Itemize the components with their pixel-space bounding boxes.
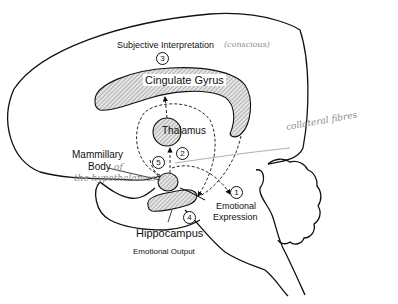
cerebellum-outline xyxy=(268,159,321,244)
brainstem-outline xyxy=(185,210,288,296)
thalamus-label: Thalamus xyxy=(162,125,206,136)
hippocampus-pointer xyxy=(168,210,172,222)
step-4-badge: 4 xyxy=(183,211,196,224)
cingulate-gyrus-label: Cingulate Gyrus xyxy=(143,74,226,86)
hippocampus-shape xyxy=(148,190,197,212)
frontal-lower-outline xyxy=(8,89,160,180)
of-annotation: of xyxy=(114,162,123,172)
brainstem-back xyxy=(256,170,305,295)
step-5-badge: 5 xyxy=(152,156,165,169)
emotional-output-label: Emotional Output xyxy=(133,247,195,256)
hippocampus-label: Hippocampus xyxy=(136,227,203,239)
temporal-lobe-notch xyxy=(100,182,155,198)
step-2-badge: 2 xyxy=(176,147,189,160)
dashed-to-expression xyxy=(172,166,230,194)
emotional-expression-label-line1: Emotional xyxy=(216,201,256,211)
step-1-badge: 1 xyxy=(230,186,243,199)
conscious-annotation: (conscious) xyxy=(224,40,270,49)
emotional-expression-label-line2: Expression xyxy=(213,212,258,222)
dashed-thalamus-to-cingulate xyxy=(165,97,167,118)
hypothalamus-annotation: the hypothalamus xyxy=(74,173,156,183)
mammillary-body-shape xyxy=(158,173,178,191)
subjective-interpretation-label: Subjective Interpretation xyxy=(117,40,214,50)
mammillary-body-label-line1: Mammillary xyxy=(72,149,123,160)
mammillary-body-label-line2: Body xyxy=(88,161,111,172)
step-3-badge: 3 xyxy=(156,52,169,65)
